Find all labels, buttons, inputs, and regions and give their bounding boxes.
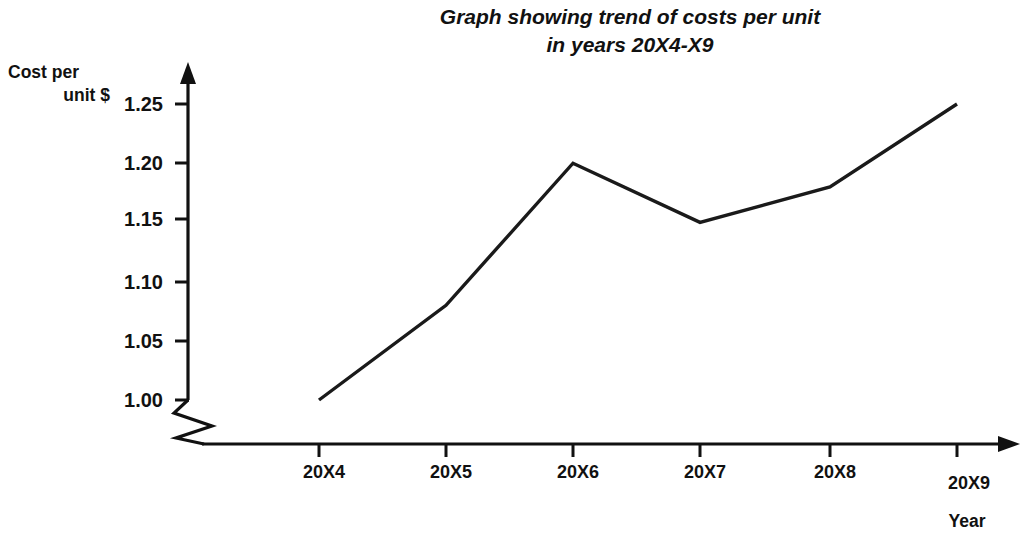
line-chart: Graph showing trend of costs per unit in… xyxy=(0,0,1036,550)
x-tick-labels: 20X4 20X5 20X6 20X7 20X8 20X9 xyxy=(303,462,990,493)
x-tick-label-20X4: 20X4 xyxy=(303,462,345,482)
x-axis-arrowhead xyxy=(998,436,1020,452)
y-tick-labels: 1.00 1.05 1.10 1.15 1.20 1.25 xyxy=(124,93,163,411)
x-tick-label-20X8: 20X8 xyxy=(814,462,856,482)
y-tick-label-1.15: 1.15 xyxy=(124,208,163,230)
y-tick-label-1.00: 1.00 xyxy=(124,389,163,411)
y-tick-label-1.10: 1.10 xyxy=(124,271,163,293)
y-tick-label-1.05: 1.05 xyxy=(124,330,163,352)
chart-title-line-1: Graph showing trend of costs per unit xyxy=(440,5,821,28)
x-tick-label-20X7: 20X7 xyxy=(684,462,726,482)
x-tick-label-20X6: 20X6 xyxy=(557,462,599,482)
y-tick-label-1.25: 1.25 xyxy=(124,93,163,115)
y-axis-label-line-1: Cost per xyxy=(8,62,79,82)
y-axis-label-line-2: unit $ xyxy=(63,85,110,105)
x-axis-label: Year xyxy=(949,511,986,531)
y-axis-break-icon xyxy=(174,400,212,444)
cost-per-unit-series xyxy=(319,104,957,400)
x-tick-label-20X9: 20X9 xyxy=(948,473,990,493)
y-tick-label-1.20: 1.20 xyxy=(124,152,163,174)
y-axis-arrowhead xyxy=(180,62,196,84)
chart-title-line-2: in years 20X4-X9 xyxy=(547,33,714,56)
chart-page: Graph showing trend of costs per unit in… xyxy=(0,0,1036,550)
x-tick-marks xyxy=(319,444,957,457)
x-tick-label-20X5: 20X5 xyxy=(430,462,472,482)
